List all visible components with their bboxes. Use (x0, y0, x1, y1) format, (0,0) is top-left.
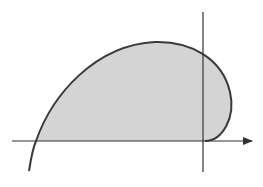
diagram-svg (0, 0, 263, 187)
diagram-canvas (0, 0, 263, 187)
shaded-region (36, 42, 231, 141)
